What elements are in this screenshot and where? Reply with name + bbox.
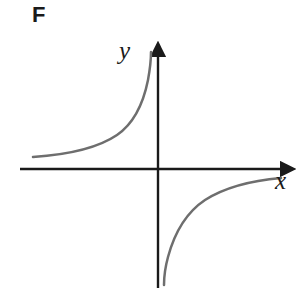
graph-plot-area bbox=[0, 0, 303, 305]
x-axis-label: x bbox=[275, 168, 286, 193]
y-axis-label: y bbox=[119, 38, 130, 63]
curve-branch-lower-right bbox=[164, 178, 281, 285]
graph-figure: F y x bbox=[0, 0, 303, 305]
curve-branch-upper-left bbox=[33, 52, 151, 157]
